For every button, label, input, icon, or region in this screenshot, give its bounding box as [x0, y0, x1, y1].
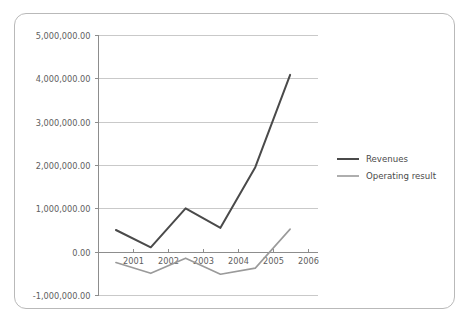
- y-axis-label-6: -1,000,000.00: [33, 291, 91, 301]
- x-axis-label-3: 2004: [228, 256, 249, 266]
- data-series: [116, 75, 290, 274]
- chart-legend: RevenuesOperating result: [337, 154, 437, 181]
- line-chart: 5,000,000.004,000,000.003,000,000.002,00…: [0, 0, 470, 323]
- y-axis-label-4: 1,000,000.00: [36, 204, 91, 214]
- legend-label-1: Operating result: [366, 171, 437, 181]
- series-line-revenues: [116, 75, 290, 247]
- x-axis-labels: 200120022003200420052006: [123, 256, 319, 266]
- y-axis-labels: 5,000,000.004,000,000.003,000,000.002,00…: [33, 31, 91, 301]
- x-axis-label-2: 2003: [193, 256, 214, 266]
- y-axis-label-0: 5,000,000.00: [36, 31, 91, 41]
- x-axis-label-0: 2001: [123, 256, 144, 266]
- y-axis-label-5: 0.00: [72, 248, 90, 258]
- y-axis-label-1: 4,000,000.00: [36, 74, 91, 84]
- x-axis-label-5: 2006: [298, 256, 319, 266]
- y-axis-label-3: 2,000,000.00: [36, 161, 91, 171]
- legend-label-0: Revenues: [366, 154, 408, 164]
- y-axis-label-2: 3,000,000.00: [36, 118, 91, 128]
- x-axis-label-1: 2002: [158, 256, 179, 266]
